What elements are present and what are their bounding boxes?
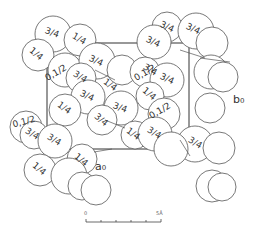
scale-end-label: 5Å bbox=[156, 210, 163, 216]
scale-start-label: 0 bbox=[84, 210, 87, 216]
scale-bar: 0 5Å bbox=[84, 210, 163, 222]
crystal-structure-diagram: 3/41/41/43/40,1/23/41/43/41/43/43/41/43/… bbox=[0, 0, 255, 236]
axis-label-b: b₀ bbox=[233, 93, 245, 106]
axis-label-a: a₀ bbox=[95, 160, 107, 173]
